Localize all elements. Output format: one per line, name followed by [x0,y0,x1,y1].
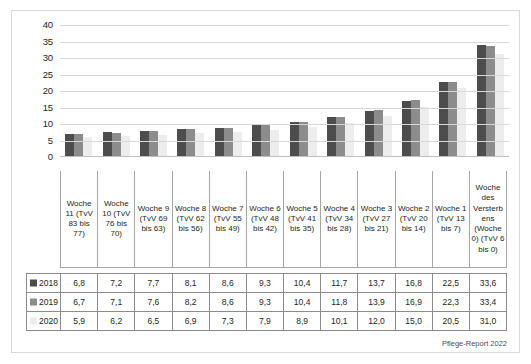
legend-row-header: 2019 [27,293,61,311]
table-cell: 8,6 [210,293,247,311]
category-label: Woche 5 (TvV 41 bis 35) [284,171,321,267]
legend-row-header: 2020 [27,312,61,330]
category-label: Woche 1 (TvV 13 bis 7) [433,171,470,267]
category-label-band: Woche 11 (TvV 83 bis 77)Woche 10 (TvV 76… [60,171,507,268]
table-cell: 16,9 [396,293,433,311]
bar-2018 [103,132,112,156]
table-cell: 9,3 [247,274,284,292]
category-label: Woche 2 (TvV 20 bis 14) [396,171,433,267]
table-row: 20196,77,17,68,28,69,310,411,813,916,922… [27,293,506,312]
table-cell: 13,7 [358,274,395,292]
y-axis-tick-label: 5 [48,136,53,146]
bar-2018 [140,131,149,156]
bar-2019 [299,122,308,156]
bar-2020 [233,132,242,156]
bar-2018 [215,128,224,156]
table-cell: 13,9 [358,293,395,311]
table-cell: 6,8 [61,274,98,292]
gridline [60,108,509,109]
gridline [60,75,509,76]
table-cell: 7,3 [210,312,247,330]
legend-year-label: 2018 [39,278,58,288]
gridline [60,124,509,125]
bar-2019 [149,131,158,156]
table-cell: 7,7 [135,274,172,292]
legend-row-header: 2018 [27,274,61,292]
bar-2019 [112,133,121,156]
category-label: Woche 7 (TvV 55 bis 49) [210,171,247,267]
bar-2020 [158,135,167,156]
table-cell: 6,7 [61,293,98,311]
y-axis-tick-label: 15 [43,103,53,113]
category-label: Woche 9 (TvV 69 bis 63) [135,171,172,267]
bar-2019 [74,134,83,156]
table-cell: 10,4 [284,274,321,292]
legend-year-label: 2019 [39,297,58,307]
bar-2018 [477,45,486,156]
y-axis-tick-label: 30 [43,53,53,63]
y-axis: 0510152025303540 [26,25,56,157]
table-cell: 20,5 [433,312,470,330]
chart-plot-region: 0510152025303540 [12,11,521,171]
bar-2020 [457,88,466,156]
category-label: Woche 11 (TvV 83 bis 77) [61,171,98,267]
bar-2020 [195,133,204,156]
bar-2020 [345,123,354,156]
category-label: Woche des Versterbens (Woche 0) (TvV 6 b… [470,171,506,267]
table-cell: 6,2 [98,312,135,330]
table-cell: 33,6 [470,274,506,292]
bar-2019 [336,117,345,156]
gridline [60,58,509,59]
table-cell: 11,7 [321,274,358,292]
legend-swatch-icon [30,280,37,287]
source-note: Pflege-Report 2022 [442,339,507,348]
bar-2020 [270,130,279,156]
gridline [60,42,509,43]
category-label: Woche 10 (TvV 76 bis 70) [98,171,135,267]
bar-2019 [448,82,457,156]
gridline [60,141,509,142]
bar-2019 [224,128,233,156]
bar-2018 [439,82,448,156]
bar-2018 [177,129,186,156]
bar-2019 [411,100,420,156]
table-row: 20205,96,26,56,97,37,98,910,112,015,020,… [27,312,506,330]
table-cell: 7,6 [135,293,172,311]
y-axis-tick-label: 25 [43,70,53,80]
gridline [60,91,509,92]
table-cell: 7,1 [98,293,135,311]
bar-2018 [290,122,299,156]
table-cell: 9,3 [247,293,284,311]
table-cell: 15,0 [396,312,433,330]
table-cell: 8,1 [173,274,210,292]
bar-2020 [83,137,92,156]
plot-canvas [60,25,509,157]
bar-2019 [186,129,195,156]
table-cell: 6,5 [135,312,172,330]
bar-2018 [65,134,74,156]
chart-figure-frame: 0510152025303540 Woche 11 (TvV 83 bis 77… [11,10,520,353]
bar-2019 [486,46,495,156]
legend-swatch-icon [30,318,37,325]
table-cell: 8,2 [173,293,210,311]
table-cell: 7,9 [247,312,284,330]
table-cell: 8,6 [210,274,247,292]
y-axis-tick-label: 40 [43,20,53,30]
legend-year-label: 2020 [39,316,58,326]
bar-2020 [121,136,130,156]
table-cell: 22,3 [433,293,470,311]
table-cell: 12,0 [358,312,395,330]
bar-2020 [383,116,392,156]
category-label: Woche 6 (TvV 48 bis 42) [247,171,284,267]
gridline [60,25,509,26]
table-cell: 10,4 [284,293,321,311]
legend-swatch-icon [30,299,37,306]
table-cell: 7,2 [98,274,135,292]
category-label: Woche 3 (TvV 27 bis 21) [358,171,395,267]
table-cell: 8,9 [284,312,321,330]
bar-2018 [402,101,411,156]
table-cell: 10,1 [321,312,358,330]
table-cell: 11,8 [321,293,358,311]
category-label: Woche 4 (TvV 34 bis 28) [321,171,358,267]
table-cell: 22,5 [433,274,470,292]
